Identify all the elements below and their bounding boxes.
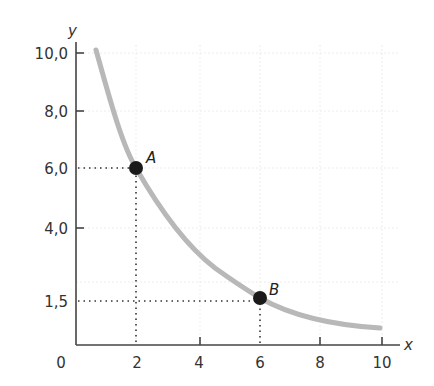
x-tick-6: 6: [255, 354, 265, 372]
x-tick-8: 8: [315, 354, 325, 372]
y-axis-label: y: [67, 22, 78, 40]
x-tick-10: 10: [372, 354, 391, 372]
x-tick-0: 0: [56, 354, 66, 372]
y-tick-6: 6,0: [44, 160, 68, 178]
y-tick-4: 4,0: [44, 220, 68, 238]
x-tick-4: 4: [194, 354, 204, 372]
y-tick-10: 10,0: [35, 45, 68, 63]
point-b-marker: [253, 291, 267, 305]
x-axis-label: x: [403, 336, 413, 354]
chart: A B y x 10,0 8,0 6,0 4,0 1,5 0 2 4 6 8 1…: [0, 0, 434, 386]
point-a-marker: [129, 161, 143, 175]
y-tick-1-5: 1,5: [44, 293, 68, 311]
point-b-label: B: [269, 281, 279, 299]
grid: [76, 45, 398, 345]
point-a-label: A: [145, 149, 156, 167]
curve-line: [96, 50, 380, 328]
projection-lines: [78, 168, 260, 345]
axes: [76, 42, 400, 345]
x-tick-2: 2: [132, 354, 142, 372]
y-tick-8: 8,0: [44, 103, 68, 121]
